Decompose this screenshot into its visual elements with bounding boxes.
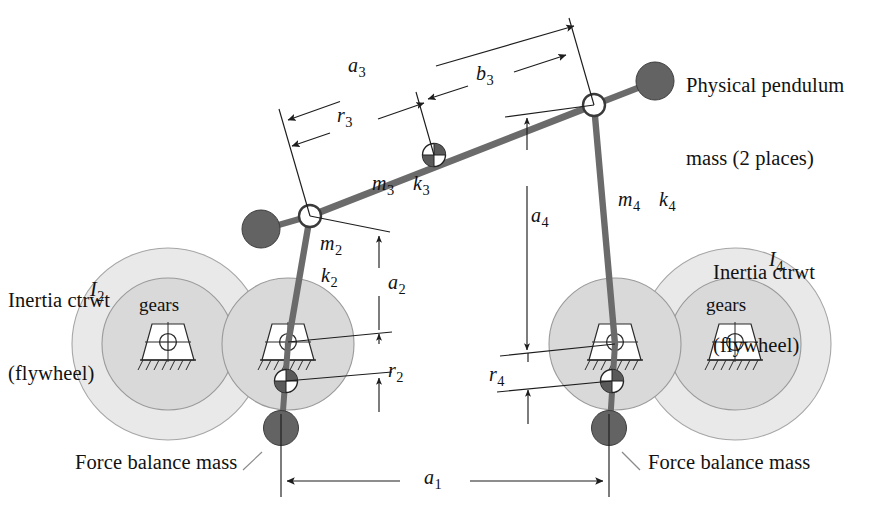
label-m4: m4 [618,188,640,215]
inertia-ctrwt-left-line2: (flywheel) [8,361,110,385]
physical-pendulum-mass-left [242,210,280,248]
dim-b3-right-seg [514,55,566,72]
label-r2: r2 [388,359,404,386]
witness-line-a [279,109,310,216]
leader-force-balance-right [622,452,640,470]
gears-left-label: gears [139,294,179,316]
inertia-ctrwt-right-line1: Inertia ctrwt [713,260,815,284]
label-r3: r3 [337,104,353,131]
label-r4: r4 [489,363,505,390]
witness-line-b [569,18,594,105]
label-a1: a1 [424,466,442,493]
dim-r3-right-seg [378,103,424,119]
label-m2: m2 [320,232,342,259]
link-coupler [310,105,594,216]
witness-line-coupler-cg [416,92,434,155]
label-k3: k3 [413,172,430,199]
label-a2: a2 [388,271,406,298]
dim-r3-left-seg [292,133,330,146]
dim-b3-left-seg [428,86,468,99]
inertia-ctrwt-right-line2: (flywheel) [713,333,815,357]
label-k4: k4 [659,188,676,215]
dim-a3-right-seg [436,26,574,66]
left-flywheel-assembly [72,248,354,440]
label-a3: a3 [348,54,366,81]
physical-pendulum-callout: Physical pendulum mass (2 places) [686,25,844,219]
label-a4: a4 [531,204,549,231]
label-k2: k2 [321,264,338,291]
label-I2: I2 [90,278,104,305]
physical-pendulum-callout-line1: Physical pendulum [686,73,844,97]
physical-pendulum-mass-right [636,62,674,100]
force-balance-mass-left-label: Force balance mass [75,450,237,474]
force-balance-mass-right-label: Force balance mass [648,450,810,474]
label-m3: m3 [372,172,394,199]
gears-right-label: gears [706,294,746,316]
witness-a2-top [310,216,390,232]
label-b3: b3 [476,62,494,89]
leader-force-balance-left [243,452,262,470]
physical-pendulum-callout-line2: mass (2 places) [686,146,844,170]
inertia-ctrwt-left-callout: Inertia ctrwt (flywheel) [8,240,110,434]
mechanism-diagram: Physical pendulum mass (2 places) Inerti… [0,0,883,524]
label-I4: I4 [769,248,783,275]
dim-a3-left-seg [288,102,340,121]
